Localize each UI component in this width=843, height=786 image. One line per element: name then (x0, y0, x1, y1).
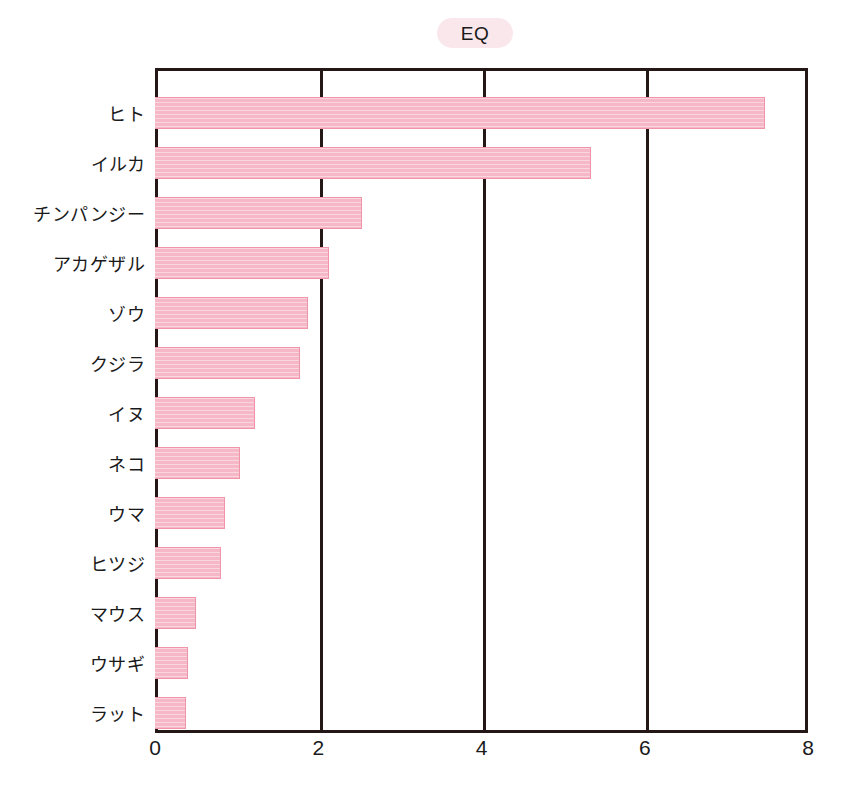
y-axis-label-2: イルカ (91, 138, 146, 188)
y-axis-label-6: クジラ (90, 338, 146, 388)
x-axis-tick-6: 6 (639, 737, 651, 758)
y-axis-label-1: ヒト (108, 88, 145, 138)
y-axis-label-7: イヌ (108, 388, 145, 438)
page-title: EQ (461, 24, 489, 43)
y-axis-category-labels: ヒトイルカチンパンジーアカゲザルゾウクジライヌネコウマヒツジマウスウサギラット (0, 68, 145, 733)
x-axis-tick-labels: 02468 (0, 737, 843, 777)
x-axis-tick-0: 0 (149, 737, 161, 758)
gridline-x-2 (320, 71, 323, 730)
chart-title-pill: EQ (437, 18, 513, 48)
plot-frame (155, 68, 808, 733)
y-axis-label-11: マウス (90, 588, 146, 638)
y-axis-label-9: ウマ (108, 488, 145, 538)
y-axis-label-3: チンパンジー (33, 188, 145, 238)
y-axis-label-5: ゾウ (108, 288, 145, 338)
y-axis-label-10: ヒツジ (90, 538, 146, 588)
eq-bar-chart: EQ ヒトイルカチンパンジーアカゲザルゾウクジライヌネコウマヒツジマウスウサギラ… (0, 0, 843, 786)
x-axis-tick-4: 4 (476, 737, 488, 758)
x-axis-tick-2: 2 (312, 737, 324, 758)
y-axis-label-8: ネコ (108, 438, 145, 488)
gridline-x-6 (646, 71, 649, 730)
x-axis-tick-8: 8 (802, 737, 814, 758)
y-axis-label-13: ラット (90, 688, 146, 738)
y-axis-label-4: アカゲザル (53, 238, 146, 288)
gridline-x-4 (483, 71, 486, 730)
y-axis-label-12: ウサギ (90, 638, 146, 688)
